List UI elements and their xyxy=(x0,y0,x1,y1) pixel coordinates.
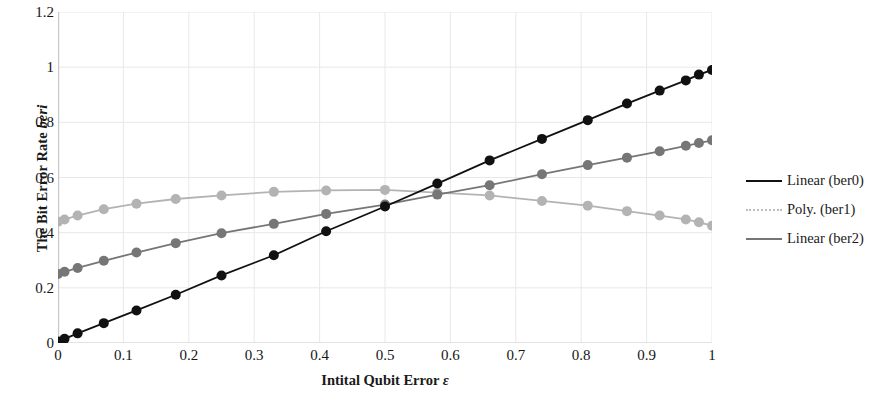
chart-legend: Linear (ber0)Poly. (ber1)Linear (ber2) xyxy=(744,166,881,253)
legend-item[interactable]: Poly. (ber1) xyxy=(744,195,881,224)
plot-svg xyxy=(58,12,712,343)
legend-line-swatch xyxy=(744,233,784,245)
data-point xyxy=(321,209,331,219)
x-tick-label: 0.1 xyxy=(103,348,143,363)
data-point xyxy=(269,219,279,229)
x-tick-label: 0.6 xyxy=(430,348,470,363)
data-point xyxy=(171,238,181,248)
data-point xyxy=(73,263,83,273)
data-point xyxy=(269,250,279,260)
y-tick-label: 0.2 xyxy=(20,281,54,296)
data-point xyxy=(99,204,109,214)
data-point xyxy=(655,86,665,96)
data-point xyxy=(217,270,227,280)
data-point xyxy=(622,99,632,109)
legend-line-swatch xyxy=(744,175,784,187)
data-point xyxy=(269,187,279,197)
data-point xyxy=(655,211,665,221)
legend-item-label: Linear (ber0) xyxy=(784,172,864,189)
x-tick-label: 0.8 xyxy=(561,348,601,363)
data-point xyxy=(537,196,547,206)
data-point xyxy=(707,221,712,231)
x-tick-label: 0 xyxy=(38,348,78,363)
data-point xyxy=(583,160,593,170)
data-point xyxy=(73,328,83,338)
data-point xyxy=(622,153,632,163)
y-axis-tick-labels: 00.20.40.60.811.2 xyxy=(14,0,54,401)
y-tick-label: 0.8 xyxy=(20,115,54,130)
y-tick-label: 0.4 xyxy=(20,226,54,241)
data-point xyxy=(60,214,70,224)
chart-container: The Bit Error Rate beri 00.20.40.60.811.… xyxy=(0,0,881,401)
legend-line-swatch xyxy=(744,204,784,216)
y-tick-label: 0.6 xyxy=(20,171,54,186)
data-point xyxy=(131,305,141,315)
data-point xyxy=(217,190,227,200)
data-point xyxy=(681,141,691,151)
legend-item[interactable]: Linear (ber0) xyxy=(744,166,881,195)
data-point xyxy=(485,155,495,165)
x-tick-label: 0.4 xyxy=(300,348,340,363)
x-axis-title-text: Intital Qubit Error xyxy=(321,372,443,388)
data-point xyxy=(583,201,593,211)
data-point xyxy=(622,206,632,216)
data-point xyxy=(681,75,691,85)
legend-item-label: Poly. (ber1) xyxy=(784,201,855,218)
data-point xyxy=(60,334,70,343)
x-tick-label: 0.3 xyxy=(234,348,274,363)
data-point xyxy=(380,185,390,195)
legend-item[interactable]: Linear (ber2) xyxy=(744,224,881,253)
data-point xyxy=(707,65,712,75)
x-tick-label: 0.7 xyxy=(496,348,536,363)
data-point xyxy=(432,190,442,200)
data-point xyxy=(131,199,141,209)
data-point xyxy=(380,201,390,211)
x-axis-title: Intital Qubit Error ε xyxy=(58,372,712,389)
data-point xyxy=(655,146,665,156)
x-tick-label: 1 xyxy=(692,348,732,363)
x-tick-label: 0.9 xyxy=(627,348,667,363)
data-point xyxy=(694,70,704,80)
x-tick-label: 0.5 xyxy=(365,348,405,363)
data-point xyxy=(321,226,331,236)
data-point xyxy=(694,217,704,227)
plot-area xyxy=(58,12,712,343)
x-axis-title-symbol: ε xyxy=(443,372,449,388)
data-point xyxy=(485,190,495,200)
data-point xyxy=(537,169,547,179)
data-point xyxy=(681,214,691,224)
data-point xyxy=(99,256,109,266)
data-point xyxy=(583,115,593,125)
legend-item-label: Linear (ber2) xyxy=(784,230,864,247)
data-point xyxy=(707,135,712,145)
data-point xyxy=(73,211,83,221)
data-point xyxy=(99,318,109,328)
data-point xyxy=(60,267,70,277)
gridlines xyxy=(58,12,712,343)
data-point xyxy=(537,134,547,144)
data-point xyxy=(432,179,442,189)
data-point xyxy=(171,290,181,300)
y-tick-label: 1.2 xyxy=(20,5,54,20)
data-point xyxy=(217,228,227,238)
x-tick-label: 0.2 xyxy=(169,348,209,363)
y-tick-label: 1 xyxy=(20,60,54,75)
data-point xyxy=(171,194,181,204)
data-point xyxy=(694,138,704,148)
data-point xyxy=(321,185,331,195)
data-point xyxy=(131,248,141,258)
data-point xyxy=(485,180,495,190)
